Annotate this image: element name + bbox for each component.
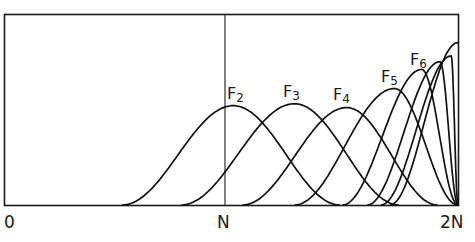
- label-f4: F4: [333, 85, 350, 106]
- label-f5: F5: [381, 67, 398, 88]
- label-f3: F3: [283, 82, 300, 103]
- curve-f2: [122, 106, 340, 205]
- x-tick-2n: 2N: [440, 212, 464, 232]
- x-tick-n: N: [217, 212, 230, 232]
- label-f2: F2: [227, 84, 244, 105]
- chart-canvas: [0, 0, 475, 242]
- label-f6: F6: [410, 50, 427, 71]
- x-tick-0: 0: [4, 212, 15, 232]
- plot-frame: [5, 15, 459, 206]
- curves-group: [122, 43, 458, 205]
